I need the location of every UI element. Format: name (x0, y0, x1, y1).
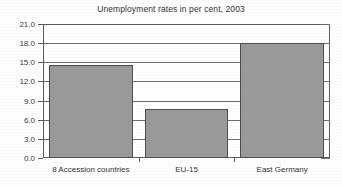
x-axis-tick (139, 158, 140, 162)
bar-chart: Unemployment rates in per cent, 2003 0.0… (0, 0, 342, 187)
y-axis-tick (38, 62, 43, 63)
y-axis-label: 3.0 (1, 134, 35, 143)
y-axis-tick (38, 120, 43, 121)
y-axis-tick (38, 24, 43, 25)
y-axis-label: 15.0 (1, 58, 35, 67)
x-axis-tick (234, 158, 235, 162)
y-axis-label: 21.0 (1, 20, 35, 29)
x-axis-category-label: EU-15 (175, 165, 198, 174)
y-axis-label: 0.0 (1, 154, 35, 163)
y-axis-tick (38, 101, 43, 102)
y-axis-label: 9.0 (1, 96, 35, 105)
y-axis-tick (38, 139, 43, 140)
y-axis-tick-right (321, 24, 330, 25)
y-axis-tick (38, 43, 43, 44)
x-axis-category-label: 8 Accession countries (52, 165, 129, 174)
x-axis-category-label: East Germany (257, 165, 308, 174)
y-axis-label: 6.0 (1, 115, 35, 124)
bar (49, 65, 133, 158)
y-axis-tick (38, 81, 43, 82)
y-axis-label: 12.0 (1, 77, 35, 86)
y-axis-label: 18.0 (1, 39, 35, 48)
bar (145, 109, 229, 158)
bar (240, 43, 324, 158)
chart-title: Unemployment rates in per cent, 2003 (0, 4, 342, 14)
y-axis-tick-right (321, 158, 330, 159)
y-axis-tick (38, 158, 43, 159)
